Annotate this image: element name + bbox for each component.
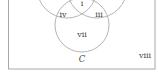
set-label-c: C — [79, 54, 86, 64]
region-label-vii: vii — [76, 30, 87, 39]
region-label-iv: iv — [59, 10, 67, 19]
region-label-i: i — [81, 0, 84, 8]
region-label-iii: iii — [95, 10, 103, 19]
venn-diagram: i iv iii vii C viii — [0, 0, 158, 81]
region-label-viii: viii — [138, 51, 152, 60]
